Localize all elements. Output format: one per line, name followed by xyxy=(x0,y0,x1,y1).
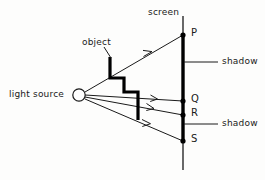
screen-label: screen xyxy=(148,8,179,17)
point-label-r: R xyxy=(191,108,198,118)
shadow-lower-label: shadow xyxy=(222,119,258,128)
point-label-p: P xyxy=(191,28,197,38)
light-source-label: light source xyxy=(9,90,64,99)
ray-to-q-arrowhead xyxy=(150,95,157,102)
point-label-s: S xyxy=(191,134,198,144)
object-label: object xyxy=(82,38,111,47)
light-source-circle xyxy=(73,89,85,101)
point-dot-q xyxy=(180,98,185,103)
point-label-q: Q xyxy=(191,94,199,104)
point-dot-r xyxy=(180,112,185,117)
object-leader-line xyxy=(104,47,111,58)
ray-to-s-arrowhead xyxy=(142,120,151,127)
ray-to-s xyxy=(85,99,183,141)
point-dot-p xyxy=(180,32,185,37)
shadow-upper-label: shadow xyxy=(222,57,258,66)
object-shape xyxy=(110,57,138,120)
ray-diagram-figure: screen object light source shadow shadow… xyxy=(0,0,265,180)
point-dot-s xyxy=(180,138,185,143)
